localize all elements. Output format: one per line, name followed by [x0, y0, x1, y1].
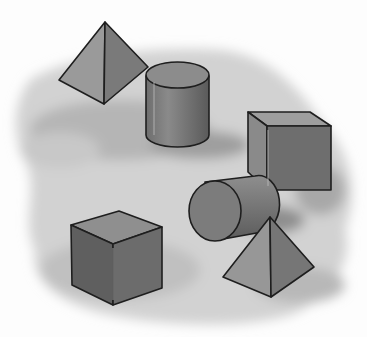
- illustration: Grayscale illustration of 3D geometric s…: [0, 0, 367, 337]
- cylinder-upright: [146, 62, 209, 147]
- cube-bottom-left: [71, 211, 162, 305]
